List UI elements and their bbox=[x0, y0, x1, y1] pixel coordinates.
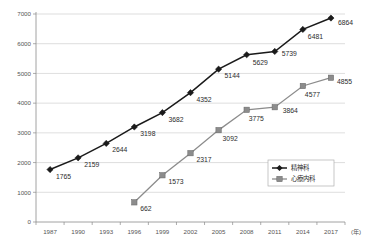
data-point-label: 1765 bbox=[56, 173, 71, 180]
x-axis-tick-label: 2014 bbox=[296, 228, 310, 235]
data-point-label: 6481 bbox=[308, 33, 323, 40]
data-point-label: 5629 bbox=[253, 59, 268, 66]
y-axis-tick-label: 0 bbox=[28, 218, 32, 225]
data-point-marker bbox=[131, 124, 137, 130]
data-point-label: 3775 bbox=[249, 115, 264, 122]
data-point-label: 3864 bbox=[283, 107, 298, 114]
data-point-label: 3198 bbox=[140, 130, 155, 137]
data-point-marker bbox=[47, 166, 53, 172]
data-point-label: 5144 bbox=[225, 72, 240, 79]
x-axis-tick-label: 2002 bbox=[184, 228, 198, 235]
legend-label-1: 精神科 bbox=[291, 163, 310, 172]
data-point-label: 2644 bbox=[112, 146, 127, 153]
data-point-label: 3092 bbox=[223, 135, 238, 142]
x-axis-tick-label: 2017 bbox=[324, 228, 338, 235]
y-axis-tick-label: 7000 bbox=[17, 10, 31, 17]
x-axis-tick-label: 2005 bbox=[212, 228, 226, 235]
x-axis-tick-label: 2011 bbox=[268, 228, 282, 235]
data-point-marker bbox=[132, 200, 137, 205]
y-axis-tick-label: 5000 bbox=[17, 70, 31, 77]
data-point-label: 4855 bbox=[337, 78, 352, 85]
x-axis-tick-label: 1987 bbox=[43, 228, 57, 235]
y-axis-tick-label: 1000 bbox=[17, 189, 31, 196]
x-axis-tick-label: 1996 bbox=[127, 228, 141, 235]
line-chart: 0100020003000400050006000700019871990199… bbox=[0, 0, 366, 246]
x-axis-tick-label: 1990 bbox=[71, 228, 85, 235]
data-point-marker bbox=[244, 52, 250, 58]
data-point-marker bbox=[272, 104, 277, 109]
data-point-label: 6864 bbox=[338, 19, 353, 26]
data-point-label: 4577 bbox=[305, 91, 320, 98]
data-point-marker bbox=[328, 75, 333, 80]
data-point-marker bbox=[103, 140, 109, 146]
legend-marker bbox=[277, 176, 282, 181]
y-axis-tick-label: 3000 bbox=[17, 129, 31, 136]
x-axis-tick-label: 2008 bbox=[240, 228, 254, 235]
legend-label-2: 心療内科 bbox=[291, 174, 316, 183]
data-point-label: 3682 bbox=[168, 116, 183, 123]
data-point-marker bbox=[216, 127, 221, 132]
data-point-label: 2317 bbox=[197, 156, 212, 163]
x-axis-tick-label: 1993 bbox=[99, 228, 113, 235]
data-point-marker bbox=[300, 83, 305, 88]
data-point-label: 4352 bbox=[197, 96, 212, 103]
data-point-marker bbox=[328, 15, 334, 21]
y-axis-tick-label: 6000 bbox=[17, 40, 31, 47]
data-point-marker bbox=[244, 107, 249, 112]
data-point-label: 662 bbox=[140, 205, 152, 212]
data-point-label: 5739 bbox=[282, 50, 297, 57]
y-axis-tick-label: 2000 bbox=[17, 159, 31, 166]
data-point-label: 2159 bbox=[84, 161, 99, 168]
data-point-label: 1573 bbox=[168, 178, 183, 185]
x-axis-tick-label: 1999 bbox=[156, 228, 170, 235]
y-axis-tick-label: 4000 bbox=[17, 99, 31, 106]
x-axis-unit-label: (年) bbox=[351, 228, 361, 236]
data-point-marker bbox=[75, 155, 81, 161]
chart-canvas: 0100020003000400050006000700019871990199… bbox=[0, 0, 366, 246]
data-point-marker bbox=[160, 173, 165, 178]
data-point-marker bbox=[188, 150, 193, 155]
